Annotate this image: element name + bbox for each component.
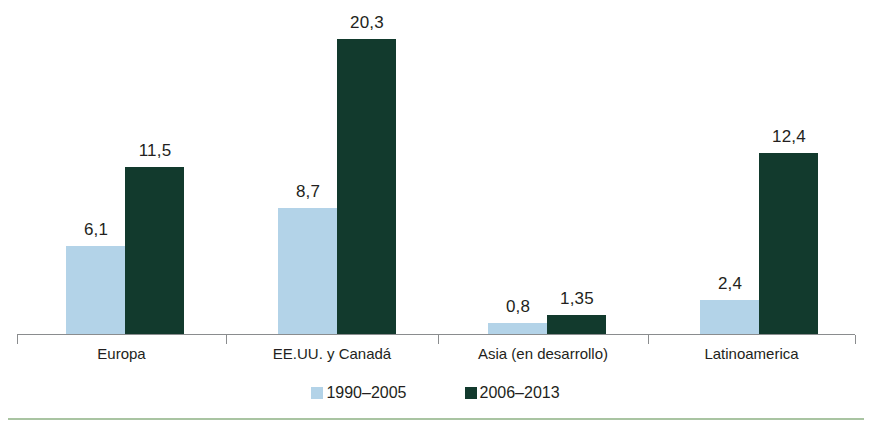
x-axis-tick-0 — [17, 335, 18, 344]
x-axis-label-asia-en-desarrollo: Asia (en desarrollo) — [438, 344, 648, 364]
x-axis-label-europa: Europa — [17, 344, 226, 364]
legend-label-series-1: 1990–2005 — [326, 385, 406, 401]
chart-legend: 1990–2005 2006–2013 — [0, 382, 871, 404]
value-label-eeuu-canada-series-1: 8,7 — [273, 183, 343, 200]
bar-group-asia-en-desarrollo: 0,8 1,35 — [488, 8, 606, 335]
x-axis-tick-2 — [438, 335, 439, 344]
bar-europa-series-2[interactable] — [125, 167, 184, 335]
x-axis-tick-4 — [855, 335, 856, 344]
legend-item-series-2[interactable]: 2006–2013 — [465, 385, 560, 401]
bar-group-europa: 6,1 11,5 — [66, 8, 184, 335]
bar-eeuu-canada-series-1[interactable] — [278, 208, 337, 335]
bottom-divider-rule — [8, 418, 864, 420]
legend-swatch-series-2-icon — [465, 387, 477, 399]
value-label-asia-series-2: 1,35 — [542, 290, 612, 307]
value-label-latinoamerica-series-2: 12,4 — [754, 128, 824, 145]
value-label-europa-series-1: 6,1 — [61, 221, 131, 238]
x-axis-label-eeuu-canada: EE.UU. y Canadá — [226, 344, 438, 364]
value-label-latinoamerica-series-1: 2,4 — [695, 275, 765, 292]
legend-swatch-series-1-icon — [311, 387, 323, 399]
bar-europa-series-1[interactable] — [66, 246, 125, 335]
x-axis-tick-1 — [226, 335, 227, 344]
bar-asia-series-2[interactable] — [547, 315, 606, 335]
bar-group-eeuu-canada: 8,7 20,3 — [278, 8, 396, 335]
legend-item-series-1[interactable]: 1990–2005 — [311, 385, 406, 401]
plot-area: 6,1 11,5 8,7 20,3 0,8 1,35 2,4 12,4 — [17, 8, 855, 335]
value-label-europa-series-2: 11,5 — [120, 142, 190, 159]
x-axis-baseline — [17, 334, 855, 335]
bar-latinoamerica-series-2[interactable] — [759, 153, 818, 335]
bar-group-latinoamerica: 2,4 12,4 — [700, 8, 818, 335]
bar-eeuu-canada-series-2[interactable] — [337, 39, 396, 335]
x-axis-tick-3 — [648, 335, 649, 344]
value-label-eeuu-canada-series-2: 20,3 — [332, 14, 402, 31]
bar-latinoamerica-series-1[interactable] — [700, 300, 759, 335]
bar-chart-figure: 6,1 11,5 8,7 20,3 0,8 1,35 2,4 12,4 — [0, 0, 871, 431]
x-axis-label-latinoamerica: Latinoamerica — [648, 344, 855, 364]
legend-label-series-2: 2006–2013 — [480, 385, 560, 401]
